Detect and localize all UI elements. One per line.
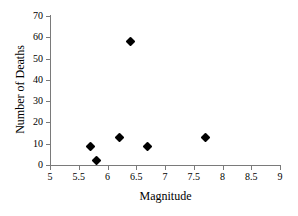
x-axis-tick: [194, 166, 195, 170]
y-axis-tick-label: 70: [19, 11, 43, 21]
data-point: [91, 156, 101, 166]
y-axis-title: Number of Deaths: [13, 30, 28, 150]
x-axis-tick-label: 8: [208, 171, 238, 182]
x-axis-tick-label: 5.5: [64, 171, 94, 182]
x-axis-tick: [251, 166, 252, 170]
x-axis-tick: [108, 166, 109, 170]
x-axis-tick: [50, 166, 51, 170]
x-axis-tick: [280, 166, 281, 170]
data-point: [200, 132, 210, 142]
data-point: [114, 132, 124, 142]
y-axis-tick: [46, 165, 50, 166]
x-axis-tick: [79, 166, 80, 170]
x-axis-tick: [165, 166, 166, 170]
x-axis-tick-label: 5: [35, 171, 65, 182]
x-axis-tick-label: 6.5: [121, 171, 151, 182]
y-axis-tick-label: 0: [19, 160, 43, 170]
x-axis-tick-label: 6: [93, 171, 123, 182]
scatter-plot: 55.566.577.588.59 010203040506070 Magnit…: [0, 0, 298, 216]
x-axis-tick-label: 7: [150, 171, 180, 182]
data-point: [85, 142, 95, 152]
x-axis-tick: [223, 166, 224, 170]
x-axis-tick-label: 8.5: [236, 171, 266, 182]
plot-area: [50, 16, 280, 165]
x-axis-tick: [136, 166, 137, 170]
x-axis-tick-label: 7.5: [179, 171, 209, 182]
x-axis-tick-label: 9: [265, 171, 295, 182]
x-axis-title: Magnitude: [50, 189, 281, 204]
data-point: [126, 37, 136, 47]
data-point: [143, 142, 153, 152]
